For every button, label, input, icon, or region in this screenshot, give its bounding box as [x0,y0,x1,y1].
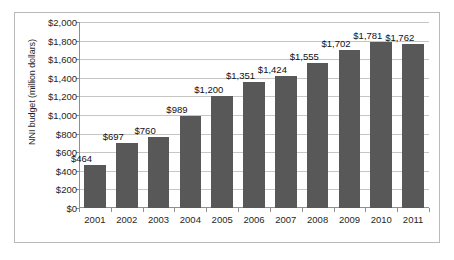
x-tick-mark [334,208,335,212]
y-axis-tick-label: $1,800 [17,35,77,46]
bar-value-label: $989 [166,104,187,115]
x-axis-tick-label: 2009 [339,214,360,225]
x-tick-mark [206,208,207,212]
x-tick-mark [174,208,175,212]
x-axis-tick-label: 2007 [275,214,296,225]
x-axis-tick-label: 2006 [243,214,264,225]
bar-value-label: $1,424 [258,64,287,75]
gridline [79,22,429,23]
x-tick-mark [79,208,80,212]
bar[interactable] [148,137,170,208]
x-tick-mark [397,208,398,212]
x-tick-mark [143,208,144,212]
x-axis-tick-label: 2010 [371,214,392,225]
y-axis-tick-label: $1,400 [17,72,77,83]
x-tick-mark [111,208,112,212]
bar-value-label: $760 [135,125,156,136]
bar-value-label: $1,200 [194,84,223,95]
y-axis-tick-label: $1,200 [17,91,77,102]
bar[interactable] [243,82,265,208]
x-axis-tick-label: 2002 [116,214,137,225]
bar[interactable] [370,42,392,208]
y-axis-tick-label: $1,000 [17,110,77,121]
x-tick-mark [270,208,271,212]
bar[interactable] [307,63,329,208]
bar-value-label: $464 [71,153,92,164]
bar-value-label: $1,702 [322,38,351,49]
bar[interactable] [402,44,424,208]
x-tick-mark [429,208,430,212]
x-tick-mark [365,208,366,212]
y-axis-tick-label: $600 [17,147,77,158]
y-axis-tick-label: $400 [17,165,77,176]
bar-value-label: $1,351 [226,70,255,81]
bar-value-label: $697 [103,131,124,142]
y-axis-tick-label: $0 [17,203,77,214]
y-axis-tick-label: $200 [17,184,77,195]
bar[interactable] [180,116,202,208]
plot-area: $0$200$400$600$800$1,000$1,200$1,400$1,6… [79,22,429,208]
bar[interactable] [116,143,138,208]
x-axis-tick-label: 2005 [212,214,233,225]
y-axis-tick-label: $1,600 [17,54,77,65]
x-axis-tick-label: 2004 [180,214,201,225]
bar[interactable] [275,76,297,208]
bar-value-label: $1,781 [353,30,382,41]
x-axis-tick-label: 2011 [403,214,423,225]
y-axis-tick-label: $800 [17,128,77,139]
x-tick-mark [302,208,303,212]
x-axis-tick-label: 2003 [148,214,169,225]
x-tick-mark [238,208,239,212]
bar-value-label: $1,762 [385,32,414,43]
bar[interactable] [339,50,361,208]
chart-figure: NNI budget (million dollars) $0$200$400$… [14,12,440,243]
bar[interactable] [211,96,233,208]
x-axis-tick-label: 2001 [84,214,105,225]
y-axis-tick-label: $2,000 [17,17,77,28]
bar-value-label: $1,555 [290,51,319,62]
x-axis-tick-label: 2008 [307,214,328,225]
bar[interactable] [84,165,106,208]
